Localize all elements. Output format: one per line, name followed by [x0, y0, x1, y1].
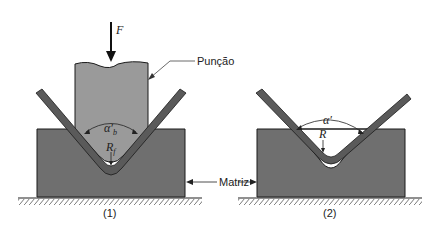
- bending-diagram: F Punção Matriz α′b Rf (1) α′ R (2): [0, 0, 435, 237]
- stage2-caption: (2): [323, 208, 336, 219]
- stage2-radius-label: R: [319, 128, 326, 140]
- die-label: Matriz: [219, 177, 249, 188]
- stage-2: [238, 89, 422, 205]
- stage2-angle-label: α′: [323, 114, 332, 126]
- stage1-caption: (1): [103, 208, 116, 219]
- stage1-angle-label: α′b: [104, 122, 117, 137]
- force-arrow-icon: [106, 51, 116, 62]
- stage-1: [18, 22, 217, 205]
- force-label: F: [116, 24, 123, 36]
- stage1-radius-label: Rf: [106, 141, 116, 156]
- diagram-graphics: [0, 0, 435, 237]
- punch-label: Punção: [197, 56, 234, 67]
